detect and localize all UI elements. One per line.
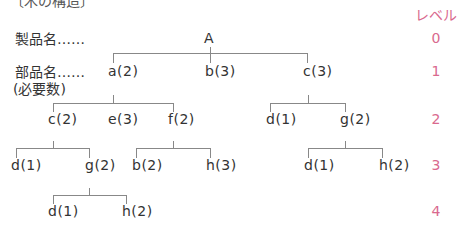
node-a-e: e(3) [108,111,138,127]
node-ac-g: g(2) [85,157,116,173]
node-c: c(3) [303,63,333,79]
node-b: b(3) [205,63,236,79]
node-acg-d: d(1) [48,203,79,219]
node-c-d: d(1) [266,111,297,127]
node-acg-h: h(2) [122,203,153,219]
node-af-h: h(3) [206,157,237,173]
node-cg-d: d(1) [304,157,335,173]
node-c-g: g(2) [340,111,371,127]
node-cg-h: h(2) [379,157,410,173]
node-af-b: b(2) [132,157,163,173]
node-a: a(2) [108,63,138,79]
node-a-f: f(2) [168,111,195,127]
node-ac-d: d(1) [11,157,42,173]
node-a-c: c(2) [48,111,78,127]
node-A: A [204,30,214,46]
